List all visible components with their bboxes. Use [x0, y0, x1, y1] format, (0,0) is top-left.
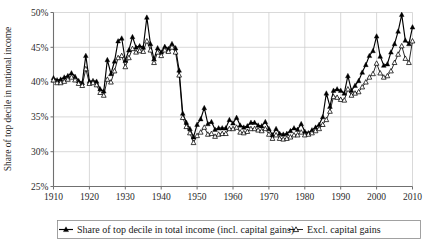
marker-open-triangle — [410, 39, 415, 43]
x-axis-tick-label: 1970 — [259, 192, 278, 202]
marker-filled-triangle — [263, 119, 268, 123]
marker-filled-triangle — [356, 78, 361, 82]
marker-filled-triangle — [130, 34, 135, 38]
marker-filled-triangle — [378, 54, 383, 58]
marker-filled-triangle — [177, 68, 182, 72]
marker-open-triangle — [378, 71, 383, 75]
marker-open-triangle — [328, 109, 333, 113]
x-axis-tick-label: 2010 — [403, 192, 422, 202]
x-axis-tick-label: 1910 — [44, 192, 63, 202]
x-axis-tick-label: 1990 — [331, 192, 350, 202]
marker-filled-triangle — [371, 48, 376, 52]
y-axis-tick-label: 50% — [31, 8, 49, 18]
x-axis-tick-label: 2000 — [367, 192, 386, 202]
marker-filled-triangle — [137, 43, 142, 47]
x-axis-tick-label: 1920 — [80, 192, 99, 202]
legend-label: Share of top decile in total income (inc… — [77, 224, 294, 236]
marker-open-triangle — [392, 60, 397, 64]
marker-open-triangle — [119, 53, 124, 57]
y-axis-label: Share of top decile in national income — [3, 27, 13, 172]
marker-filled-triangle — [346, 73, 351, 77]
marker-open-triangle — [389, 68, 394, 72]
marker-open-triangle — [191, 140, 196, 144]
marker-filled-triangle — [299, 121, 304, 125]
marker-filled-triangle — [238, 123, 243, 127]
marker-filled-triangle — [209, 119, 214, 123]
x-axis-tick-label: 1930 — [116, 192, 135, 202]
marker-open-triangle — [346, 87, 351, 91]
marker-filled-triangle — [396, 29, 401, 33]
y-axis-tick-labels: 25%30%35%40%45%50% — [31, 8, 53, 192]
marker-open-triangle — [209, 131, 214, 135]
marker-filled-triangle — [392, 41, 397, 45]
marker-filled-triangle — [389, 50, 394, 54]
y-axis-tick-label: 35% — [31, 112, 49, 122]
marker-filled-triangle — [363, 62, 368, 66]
gridlines — [54, 13, 413, 187]
marker-filled-triangle — [227, 117, 232, 121]
y-axis-tick-label: 45% — [31, 43, 49, 53]
x-axis-tick-label: 1940 — [152, 192, 171, 202]
chart-figure: 25%30%35%40%45%50% 191019201930194019501… — [0, 0, 431, 241]
y-axis-tick-label: 30% — [31, 147, 49, 157]
marker-filled-triangle — [292, 126, 297, 130]
income-inequality-line-chart: 25%30%35%40%45%50% 191019201930194019501… — [0, 0, 431, 241]
marker-filled-triangle — [202, 105, 207, 109]
marker-filled-triangle — [83, 53, 88, 57]
marker-open-triangle — [144, 39, 149, 43]
marker-open-triangle — [399, 43, 404, 47]
marker-filled-triangle — [274, 126, 279, 130]
marker-filled-triangle — [410, 25, 415, 29]
x-axis-tick-label: 1950 — [188, 192, 207, 202]
marker-filled-triangle — [234, 115, 239, 119]
marker-open-triangle — [396, 52, 401, 56]
legend-entry-incl-capital-gains: Share of top decile in total income (inc… — [59, 224, 294, 236]
marker-filled-triangle — [335, 87, 340, 91]
marker-open-triangle — [112, 68, 117, 72]
marker-open-triangle — [123, 64, 128, 68]
marker-filled-triangle — [324, 91, 329, 95]
marker-open-triangle — [403, 56, 408, 60]
marker-open-triangle — [374, 61, 379, 65]
marker-filled-triangle — [360, 70, 365, 74]
x-axis-tick-label: 1980 — [295, 192, 314, 202]
marker-filled-triangle — [105, 57, 110, 61]
y-axis-tick-label: 40% — [31, 77, 49, 87]
marker-filled-triangle — [385, 62, 390, 66]
marker-open-triangle — [371, 71, 376, 75]
marker-filled-triangle — [144, 15, 149, 19]
marker-filled-triangle — [119, 36, 124, 40]
marker-filled-triangle — [374, 34, 379, 38]
y-axis-tick-label: 25% — [31, 182, 49, 192]
x-axis-tick-label: 1960 — [224, 192, 243, 202]
x-axis-tick-labels: 1910192019301940195019601970198019902000… — [44, 187, 422, 202]
legend-label: Excl. capital gains — [307, 224, 381, 235]
chart-legend: Share of top decile in total income (inc… — [58, 221, 421, 239]
marker-filled-triangle — [403, 38, 408, 42]
marker-open-triangle — [177, 73, 182, 77]
